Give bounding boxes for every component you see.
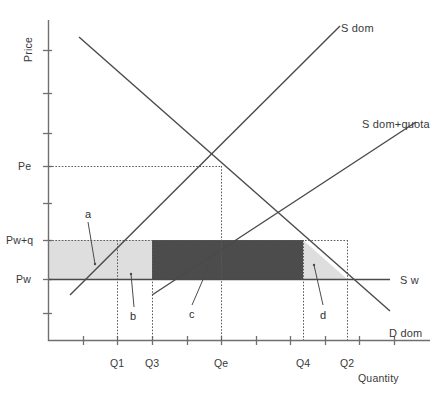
y-tick-label-pw: Pw [16, 273, 31, 285]
region-b-shape [117, 240, 152, 279]
x-tick-label-qe: Qe [214, 357, 228, 369]
region-label-a: a [85, 208, 91, 220]
region-label-c: c [189, 308, 195, 320]
curve-label-s-w: S w [400, 274, 419, 286]
x-tick-label-q1: Q1 [110, 357, 124, 369]
y-axis-title: Price [22, 37, 34, 62]
curve-label-s-dom: S dom [341, 22, 374, 34]
region-label-b: b [130, 310, 136, 322]
x-axis-title: Quantity [358, 372, 399, 384]
y-tick-label-pwq: Pw+q [6, 234, 33, 246]
region-d-shape [303, 240, 347, 279]
region-label-d: d [320, 309, 326, 321]
x-tick-label-q2: Q2 [340, 357, 354, 369]
supply-demand-quota-chart: Price Quantity Pe Pw+q Pw Q1 Q3 Qe Q4 Q2… [0, 0, 442, 404]
x-tick-label-q3: Q3 [145, 357, 159, 369]
region-a-shape [49, 240, 117, 279]
x-tick-label-q4: Q4 [296, 357, 310, 369]
curve-label-s-dom-quota: S dom+quota [362, 118, 430, 130]
chart-canvas [0, 0, 442, 404]
curve-label-d-dom: D dom [389, 327, 422, 339]
y-tick-label-pe: Pe [18, 160, 31, 172]
